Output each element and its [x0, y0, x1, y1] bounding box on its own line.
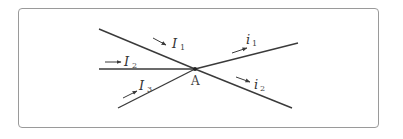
arrow-i2-icon — [236, 77, 250, 82]
label-I2: I 2 — [123, 54, 137, 70]
svg-text:1: 1 — [180, 43, 185, 52]
svg-text:2: 2 — [260, 84, 265, 93]
svg-text:I: I — [138, 78, 145, 93]
arrow-i1-icon — [232, 48, 247, 53]
svg-text:I: I — [123, 54, 130, 69]
junction-diagram: A I 1 I 2 I 3 i 1 i 2 — [0, 0, 403, 139]
wire-i2 — [195, 69, 292, 108]
wire-I3 — [118, 69, 195, 108]
arrow-I3-icon — [123, 91, 137, 98]
junction-node-A — [193, 67, 197, 71]
svg-text:3: 3 — [147, 85, 152, 94]
label-i2: i 2 — [254, 77, 265, 93]
svg-text:2: 2 — [132, 61, 137, 70]
label-I3: I 3 — [138, 78, 152, 94]
label-I1: I 1 — [171, 36, 185, 52]
svg-text:i: i — [254, 77, 258, 92]
svg-text:1: 1 — [252, 39, 257, 48]
label-i1: i 1 — [246, 32, 257, 48]
arrow-I1-icon — [153, 38, 166, 45]
node-label-A: A — [190, 74, 200, 88]
svg-text:i: i — [246, 32, 250, 47]
svg-text:I: I — [171, 36, 178, 51]
